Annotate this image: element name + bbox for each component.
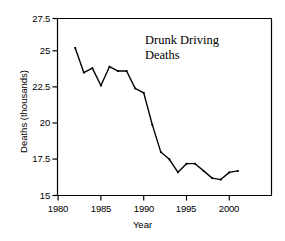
x-tick-label-1985: 1985 xyxy=(81,203,121,214)
data-point xyxy=(151,124,153,126)
data-point xyxy=(168,158,170,160)
data-point xyxy=(237,170,239,172)
chart-title-line-1: Drunk Driving xyxy=(145,33,255,48)
x-tick-label-2000: 2000 xyxy=(209,203,249,214)
y-tick-label-15: 15 xyxy=(6,190,50,201)
x-tick-label-1980: 1980 xyxy=(38,203,78,214)
y-tick-label-27-5: 27.5 xyxy=(6,13,50,24)
chart-figure: 27.5 25 22.5 20 17.5 15 1980 1985 1990 1… xyxy=(0,0,285,241)
y-axis-ticks xyxy=(53,19,58,196)
x-tick-label-1995: 1995 xyxy=(166,203,206,214)
data-point xyxy=(186,163,188,165)
data-point xyxy=(74,47,76,49)
data-point xyxy=(203,170,205,172)
data-point xyxy=(143,92,145,94)
data-point xyxy=(177,171,179,173)
chart-title: Drunk Driving Deaths xyxy=(145,33,255,63)
data-series-markers xyxy=(74,47,238,180)
x-axis-title: Year xyxy=(0,219,285,230)
data-point xyxy=(134,88,136,90)
data-point xyxy=(194,163,196,165)
data-point xyxy=(160,151,162,153)
data-point xyxy=(91,67,93,69)
x-axis-ticks xyxy=(58,196,229,201)
chart-title-line-2: Deaths xyxy=(145,48,255,63)
data-series-line xyxy=(75,48,238,180)
data-point xyxy=(109,66,111,68)
data-point xyxy=(100,85,102,87)
data-point xyxy=(83,72,85,74)
data-point xyxy=(126,70,128,72)
data-point xyxy=(220,179,222,181)
data-point xyxy=(211,177,213,179)
x-tick-label-1990: 1990 xyxy=(124,203,164,214)
data-point xyxy=(117,70,119,72)
y-axis-title: Deaths (thousands) xyxy=(18,42,29,182)
data-point xyxy=(228,171,230,173)
